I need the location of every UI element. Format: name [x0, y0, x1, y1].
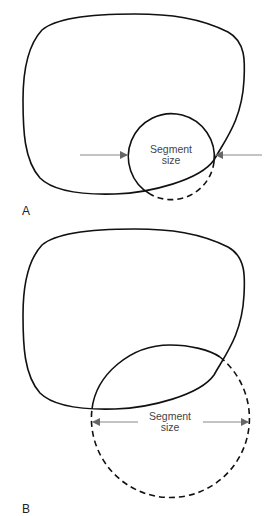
panel-b — [23, 229, 249, 498]
segment-circle-b-solid — [92, 345, 220, 409]
segment-label-line2-b: size — [140, 422, 200, 433]
panel-label-b: B — [22, 502, 30, 516]
panel-label-a: A — [22, 204, 30, 218]
diagram-canvas — [0, 0, 270, 516]
panel-a — [23, 14, 262, 200]
blob-outline-a — [23, 14, 244, 194]
segment-label-line2-a: size — [141, 155, 201, 166]
blob-outline-b — [23, 229, 244, 409]
segment-size-label-b: Segment size — [140, 411, 200, 433]
segment-size-label-a: Segment size — [141, 144, 201, 166]
